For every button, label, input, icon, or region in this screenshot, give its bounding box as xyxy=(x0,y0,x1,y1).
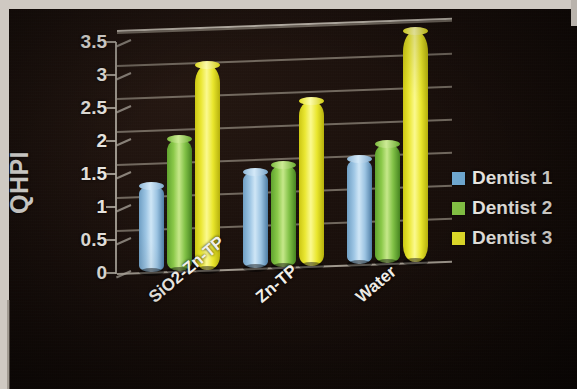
legend-label: Dentist 2 xyxy=(472,197,552,219)
y-tick-mark xyxy=(106,272,116,274)
bar-water-dentist-3 xyxy=(403,31,428,262)
bar-cap-ellipse xyxy=(167,135,192,143)
bar-cap-ellipse xyxy=(271,161,296,169)
bar-sio2-zn-tp-dentist-2 xyxy=(167,139,192,271)
bar-water-dentist-1 xyxy=(347,159,372,265)
y-tick-mark xyxy=(106,140,116,142)
y-tick-label: 0 xyxy=(47,262,107,284)
bar-water-dentist-2 xyxy=(375,144,400,263)
y-tick-mark xyxy=(106,41,116,43)
y-tick-mark xyxy=(106,74,116,76)
bar-series-container xyxy=(117,30,452,275)
bar-cap-ellipse xyxy=(403,27,428,35)
bar-base-ellipse xyxy=(139,268,164,276)
legend-swatch-icon xyxy=(452,232,465,245)
chart-legend: Dentist 1Dentist 2Dentist 3 xyxy=(452,163,552,253)
scan-frame-right xyxy=(571,0,577,26)
legend-item[interactable]: Dentist 1 xyxy=(452,163,552,193)
y-tick-mark xyxy=(106,206,116,208)
y-tick-label: 1.5 xyxy=(47,163,107,185)
bar-cap-ellipse xyxy=(375,140,400,148)
y-tick-mark xyxy=(106,107,116,109)
bar-sio2-zn-tp-dentist-1 xyxy=(139,186,164,272)
bar-zn-tp-dentist-1 xyxy=(243,172,268,268)
chart-screenshot: QHPI 3.532.521.510.50 SiO2-Zn-TPZn-TPWat… xyxy=(0,0,577,389)
bar-base-ellipse xyxy=(403,258,428,266)
y-tick-label: 3.5 xyxy=(47,31,107,53)
y-tick-label: 2 xyxy=(47,130,107,152)
y-tick-label: 2.5 xyxy=(47,97,107,119)
y-axis-tick-labels: 3.532.521.510.50 xyxy=(47,0,107,389)
bar-cap-ellipse xyxy=(195,61,220,69)
bar-zn-tp-dentist-2 xyxy=(271,165,296,267)
bar-base-ellipse xyxy=(347,260,372,268)
y-tick-mark xyxy=(106,173,116,175)
bar-zn-tp-dentist-3 xyxy=(299,101,324,266)
y-tick-label: 3 xyxy=(47,64,107,86)
y-tick-label: 1 xyxy=(47,196,107,218)
scan-frame-bottom-left xyxy=(7,300,10,389)
legend-item[interactable]: Dentist 2 xyxy=(452,193,552,223)
legend-swatch-icon xyxy=(452,202,465,215)
bar-base-ellipse xyxy=(299,262,324,270)
bar-cap-ellipse xyxy=(299,97,324,105)
bar-chart: QHPI 3.532.521.510.50 SiO2-Zn-TPZn-TPWat… xyxy=(0,0,577,389)
scan-frame-top xyxy=(0,0,577,9)
legend-swatch-icon xyxy=(452,172,465,185)
bar-cap-ellipse xyxy=(243,168,268,176)
bar-cap-ellipse xyxy=(347,155,372,163)
bar-base-ellipse xyxy=(243,264,268,272)
legend-item[interactable]: Dentist 3 xyxy=(452,223,552,253)
legend-label: Dentist 3 xyxy=(472,227,552,249)
y-tick-mark xyxy=(106,239,116,241)
y-tick-label: 0.5 xyxy=(47,229,107,251)
legend-label: Dentist 1 xyxy=(472,167,552,189)
bar-cap-ellipse xyxy=(139,182,164,190)
